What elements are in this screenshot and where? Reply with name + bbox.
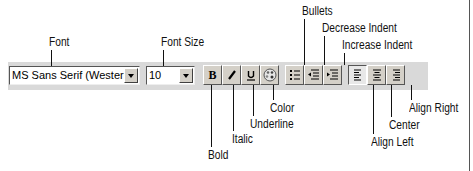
- callout-align-left: Align Left: [371, 135, 414, 149]
- leader-align-left: [373, 85, 374, 134]
- underline-icon: [246, 70, 256, 81]
- page-border: [469, 0, 470, 171]
- align-left-button[interactable]: [348, 65, 367, 85]
- align-left-icon: [353, 69, 363, 81]
- indent-icon: [326, 69, 339, 81]
- leader-bold: [211, 85, 212, 147]
- align-right-icon: [391, 69, 401, 81]
- callout-bullets: Bullets: [302, 4, 333, 18]
- font-size-select[interactable]: 10: [146, 66, 195, 85]
- italic-icon: [227, 70, 237, 80]
- leader-center: [391, 85, 392, 117]
- font-select-value: MS Sans Serif (Western): [12, 69, 133, 81]
- decrease-indent-button[interactable]: [304, 65, 323, 85]
- leader-decrease-indent: [324, 36, 325, 65]
- leader-font: [51, 50, 52, 66]
- outdent-icon: [307, 69, 320, 81]
- bold-icon: B: [208, 68, 216, 83]
- bullets-button[interactable]: [285, 65, 304, 85]
- leader-underline: [253, 85, 254, 116]
- leader-increase-indent: [344, 53, 345, 65]
- underline-button[interactable]: [241, 65, 260, 85]
- callout-color: Color: [270, 101, 294, 115]
- bold-button[interactable]: B: [203, 65, 222, 85]
- leader-bullets: [304, 19, 305, 65]
- align-center-button[interactable]: [367, 65, 386, 85]
- font-size-dropdown-button[interactable]: [179, 68, 193, 83]
- italic-button[interactable]: [222, 65, 241, 85]
- align-right-button[interactable]: [386, 65, 405, 85]
- color-button[interactable]: [260, 65, 279, 85]
- callout-italic: Italic: [232, 132, 253, 146]
- callout-font-size: Font Size: [161, 35, 204, 49]
- callout-bold: Bold: [208, 148, 228, 162]
- increase-indent-button[interactable]: [323, 65, 342, 85]
- bullet-list-icon: [289, 69, 301, 81]
- callout-decrease-indent: Decrease Indent: [322, 21, 397, 35]
- leader-align-right: [411, 85, 412, 100]
- leader-italic: [233, 85, 234, 131]
- leader-font-size: [163, 50, 164, 66]
- callout-align-right: Align Right: [409, 101, 458, 115]
- callout-font: Font: [49, 35, 69, 49]
- leader-color: [273, 85, 274, 100]
- callout-center: Center: [389, 118, 420, 132]
- font-dropdown-button[interactable]: [124, 68, 138, 83]
- font-select[interactable]: MS Sans Serif (Western): [9, 66, 140, 85]
- font-size-value: 10: [149, 69, 161, 81]
- callout-increase-indent: Increase Indent: [342, 38, 412, 52]
- palette-icon: [263, 68, 277, 82]
- align-center-icon: [372, 69, 382, 81]
- callout-underline: Underline: [250, 117, 294, 131]
